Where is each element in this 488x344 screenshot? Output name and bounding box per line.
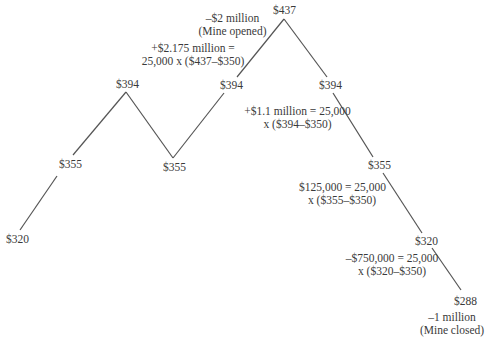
annotation-payoff-437-line1: +$2.175 million =: [134, 42, 252, 55]
edge-437-394: [284, 19, 327, 77]
annotation-mine-opened: –$2 million (Mine opened): [190, 12, 275, 38]
annotation-payoff-437-line2: 25,000 x ($437–$350): [134, 55, 252, 68]
edge-355-394-b: [173, 93, 224, 158]
annotation-mine-opened-note: (Mine opened): [190, 25, 275, 38]
node-label-394-b: $394: [220, 79, 243, 92]
annotation-payoff-355-line2: x ($355–$350): [299, 194, 385, 207]
edge-320-355: [20, 176, 57, 230]
annotation-payoff-355: $125,000 = 25,000 x ($355–$350): [299, 181, 385, 207]
node-label-394-c: $394: [319, 79, 342, 92]
annotation-payoff-394: +$1.1 million = 25,000 x ($394–$350): [235, 105, 360, 131]
edge-355-394-a: [73, 92, 126, 155]
annotation-mine-closed-amount: –1 million: [416, 311, 488, 324]
annotation-payoff-394-line2: x ($394–$350): [235, 118, 360, 131]
node-label-320-c: $320: [415, 235, 438, 248]
annotation-payoff-437: +$2.175 million = 25,000 x ($437–$350): [134, 42, 252, 68]
node-label-288-end: $288: [454, 295, 477, 308]
annotation-payoff-320-line1: –$750,000 = 25,000: [342, 252, 442, 265]
annotation-payoff-394-line1: +$1.1 million = 25,000: [235, 105, 360, 118]
node-label-320-start: $320: [6, 233, 29, 246]
annotation-payoff-355-line1: $125,000 = 25,000: [299, 181, 385, 194]
annotation-mine-closed-note: (Mine closed): [416, 324, 488, 337]
annotation-payoff-320-line2: x ($320–$350): [342, 265, 442, 278]
annotation-mine-opened-amount: –$2 million: [190, 12, 275, 25]
edge-355-320: [383, 173, 422, 233]
annotation-mine-closed: –1 million (Mine closed): [416, 311, 488, 337]
annotation-payoff-320: –$750,000 = 25,000 x ($320–$350): [342, 252, 442, 278]
edge-394-355: [126, 92, 173, 158]
node-label-394-a: $394: [116, 78, 139, 91]
node-label-437-peak: $437: [273, 4, 296, 17]
node-label-355-a: $355: [59, 158, 82, 171]
node-label-355-b: $355: [163, 161, 186, 174]
node-label-355-c: $355: [368, 159, 391, 172]
